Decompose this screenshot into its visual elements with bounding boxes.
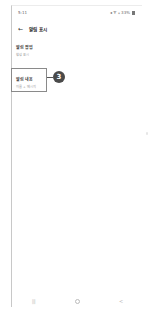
signal-icon: ᯤ xyxy=(113,10,117,15)
back-icon[interactable]: < xyxy=(119,298,123,304)
screenshot-canvas: 5:11 ◂ ᯤ ⁎ 33% ← 알림 표시 알림 팝업 항상 표시 알림 내용… xyxy=(0,0,152,310)
status-time: 5:11 xyxy=(18,10,27,15)
phone-screen: 5:11 ◂ ᯤ ⁎ 33% ← 알림 표시 알림 팝업 항상 표시 알림 내용… xyxy=(11,5,142,307)
app-bar: ← 알림 표시 xyxy=(12,23,143,35)
scroll-indicator xyxy=(146,132,148,135)
setting-item-notification-popup[interactable]: 알림 팝업 항상 표시 xyxy=(16,44,33,57)
navigation-bar: ||| < xyxy=(12,294,143,308)
setting-value: 항상 표시 xyxy=(16,52,33,57)
home-icon[interactable] xyxy=(75,299,80,304)
battery-percent: 33% xyxy=(121,10,130,15)
callout-highlight-box xyxy=(11,68,47,92)
status-bar: 5:11 ◂ ᯤ ⁎ 33% xyxy=(12,6,143,18)
battery-icon xyxy=(132,11,135,15)
recents-icon[interactable]: ||| xyxy=(32,298,36,304)
wifi-icon: ⁎ xyxy=(118,10,120,15)
status-icons: ◂ ᯤ ⁎ 33% xyxy=(110,10,135,15)
setting-title: 알림 팝업 xyxy=(16,44,33,50)
page-title: 알림 표시 xyxy=(29,26,47,32)
callout-number-badge: 3 xyxy=(53,71,65,83)
mute-icon: ◂ xyxy=(110,10,112,15)
back-arrow-icon[interactable]: ← xyxy=(18,26,23,32)
